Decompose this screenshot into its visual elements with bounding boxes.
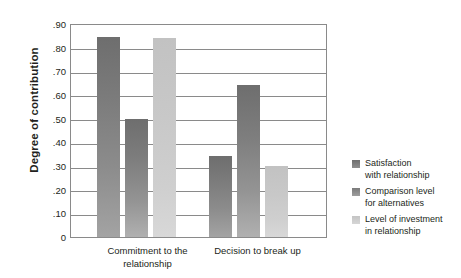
- legend-label: Level of investment in relationship: [365, 214, 443, 237]
- plot-area: [70, 24, 327, 238]
- bar: [265, 166, 288, 237]
- legend: Satisfaction with relationship Compariso…: [352, 158, 460, 242]
- legend-item: Satisfaction with relationship: [352, 158, 460, 181]
- y-tick-label: .10: [38, 208, 66, 219]
- y-tick-label: .60: [38, 90, 66, 101]
- bar: [125, 119, 148, 237]
- x-axis-group-label: Commitment to the relationship: [90, 245, 205, 270]
- y-tick-label: .70: [38, 66, 66, 77]
- legend-swatch-icon: [352, 216, 360, 224]
- bar-series-container: [71, 25, 326, 237]
- y-tick-label: .80: [38, 43, 66, 54]
- y-tick-label: .50: [38, 114, 66, 125]
- legend-swatch-icon: [352, 188, 360, 196]
- legend-item: Comparison level for alternatives: [352, 186, 460, 209]
- y-axis-tick-labels: .90 .80 .70 .60 .50 .40 .30 .20 .10 0: [38, 0, 66, 278]
- legend-label: Comparison level for alternatives: [365, 186, 435, 209]
- y-tick-label: .30: [38, 161, 66, 172]
- legend-item: Level of investment in relationship: [352, 214, 460, 237]
- legend-swatch-icon: [352, 160, 360, 168]
- bar: [97, 37, 120, 237]
- y-tick-label: 0: [38, 232, 66, 243]
- bar: [153, 38, 176, 237]
- y-tick-label: .20: [38, 185, 66, 196]
- bar: [237, 85, 260, 237]
- x-axis-group-label: Decision to break up: [205, 245, 310, 258]
- y-tick-label: .90: [38, 19, 66, 30]
- chart-figure: Degree of contribution .90 .80 .70 .60 .…: [0, 0, 461, 278]
- bar: [209, 156, 232, 237]
- legend-label: Satisfaction with relationship: [365, 158, 430, 181]
- y-tick-label: .40: [38, 137, 66, 148]
